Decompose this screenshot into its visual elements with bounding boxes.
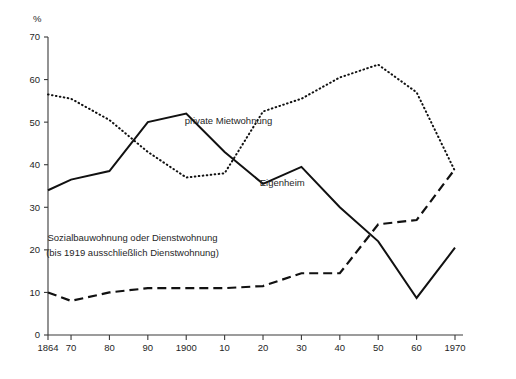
series-annotation-2: Sozialbauwohnung oder Dienstwohnung bbox=[47, 232, 217, 243]
x-axis-tick-label: 90 bbox=[143, 342, 154, 353]
y-axis-tick-label: 70 bbox=[29, 31, 40, 42]
x-axis-tick-label: 1970 bbox=[444, 342, 465, 353]
y-axis-tick-label: 30 bbox=[29, 202, 40, 213]
x-axis-tick-label: 1864 bbox=[37, 342, 58, 353]
y-axis-tick-label: 10 bbox=[29, 287, 40, 298]
x-axis: 186470809019001020304050601970 bbox=[37, 335, 465, 353]
series-annotation-3: (bis 1919 ausschließlich Dienstwohnung) bbox=[46, 247, 219, 258]
x-axis-tick-label: 1900 bbox=[176, 342, 197, 353]
series-group bbox=[48, 65, 455, 301]
y-axis-tick-label: 50 bbox=[29, 117, 40, 128]
x-axis-tick-label: 70 bbox=[66, 342, 77, 353]
x-axis-tick-label: 40 bbox=[335, 342, 346, 353]
x-axis-tick-label: 30 bbox=[296, 342, 307, 353]
line-chart-housing-tenure: 010203040506070 186470809019001020304050… bbox=[0, 0, 516, 379]
x-axis-tick-label: 10 bbox=[219, 342, 230, 353]
annotation-group: private MietwohnungEigenheimSozialbauwoh… bbox=[46, 115, 305, 258]
y-axis: 010203040506070 bbox=[29, 31, 48, 340]
y-axis-tick-label: 60 bbox=[29, 74, 40, 85]
y-axis-tick-label: 0 bbox=[35, 329, 40, 340]
x-axis-tick-label: 80 bbox=[104, 342, 115, 353]
series-annotation-0: private Mietwohnung bbox=[185, 115, 273, 126]
y-axis-unit-label: % bbox=[33, 13, 42, 24]
y-axis-tick-label: 20 bbox=[29, 244, 40, 255]
y-axis-tick-label: 40 bbox=[29, 159, 40, 170]
series-annotation-1: Eigenheim bbox=[260, 177, 305, 188]
x-axis-tick-label: 50 bbox=[373, 342, 384, 353]
x-axis-tick-label: 60 bbox=[411, 342, 422, 353]
series-path-solid bbox=[48, 114, 455, 298]
x-axis-tick-label: 20 bbox=[258, 342, 269, 353]
chart-container: 010203040506070 186470809019001020304050… bbox=[0, 0, 516, 379]
